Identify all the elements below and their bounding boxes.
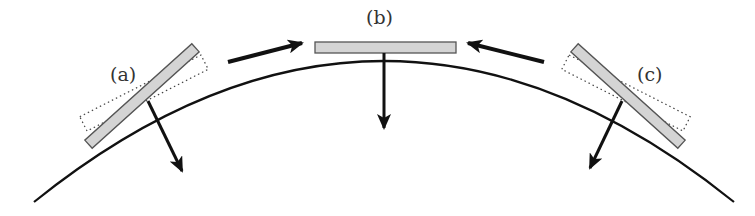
motion-arrow-left — [228, 43, 302, 62]
plate-b — [315, 42, 456, 53]
label-c: (c) — [637, 63, 662, 85]
plate-a-group: (a) — [80, 44, 208, 171]
plate-c — [571, 44, 685, 149]
motion-arrow-right — [468, 43, 544, 62]
plate-a — [85, 44, 199, 149]
plate-b-group: (b) — [315, 6, 456, 128]
label-a: (a) — [110, 63, 136, 85]
diagram: (a) (b) (c) — [0, 0, 755, 216]
label-b: (b) — [366, 6, 393, 28]
